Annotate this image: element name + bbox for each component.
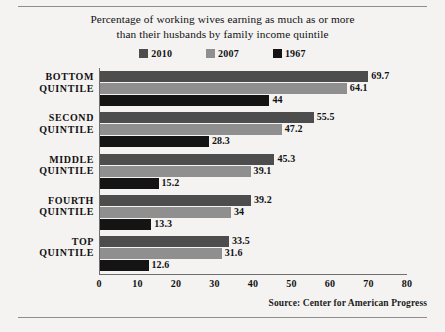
- bar-group: BOTTOMQUINTILE69.764.144: [100, 71, 407, 107]
- plot-area: BOTTOMQUINTILE69.764.144SECONDQUINTILE55…: [99, 68, 407, 274]
- bar-2010: [100, 195, 251, 206]
- category-label: MIDDLEQUINTILE: [10, 154, 94, 177]
- x-tick-label: 60: [325, 278, 335, 289]
- chart-legend: 2010 2007 1967: [0, 48, 445, 59]
- bar-row: 64.1: [100, 83, 407, 94]
- chart-title: Percentage of working wives earning as m…: [0, 12, 445, 42]
- bar-row: 45.3: [100, 154, 407, 165]
- category-label-line: TOP: [10, 236, 94, 248]
- category-label-line: QUINTILE: [10, 247, 94, 259]
- bar-value-label: 33.5: [232, 235, 250, 246]
- category-label-line: QUINTILE: [10, 206, 94, 218]
- bar-value-label: 64.1: [350, 82, 368, 93]
- bar-2010: [100, 154, 274, 165]
- bar-row: 34: [100, 207, 407, 218]
- bar-1967: [100, 136, 209, 147]
- bar-group: FOURTHQUINTILE39.23413.3: [100, 195, 407, 231]
- legend-swatch-2007: [206, 49, 215, 58]
- bar-value-label: 28.3: [212, 135, 230, 146]
- legend-label-2010: 2010: [151, 48, 172, 59]
- bar-value-label: 44: [272, 94, 282, 105]
- bar-2007: [100, 124, 282, 135]
- bottom-divider: [18, 317, 427, 318]
- bar-group: SECONDQUINTILE55.547.228.3: [100, 112, 407, 148]
- bar-row: 31.6: [100, 248, 407, 259]
- bar-value-label: 13.3: [154, 218, 172, 229]
- bar-1967: [100, 219, 151, 230]
- legend-swatch-1967: [273, 49, 282, 58]
- bar-2010: [100, 71, 368, 82]
- bar-row: 28.3: [100, 136, 407, 147]
- x-axis-line: [99, 274, 407, 275]
- bar-row: 39.1: [100, 166, 407, 177]
- bar-2007: [100, 166, 251, 177]
- bar-value-label: 34: [234, 206, 244, 217]
- bar-row: 69.7: [100, 71, 407, 82]
- x-tick-label: 80: [402, 278, 412, 289]
- bar-value-label: 55.5: [317, 111, 335, 122]
- bar-row: 13.3: [100, 219, 407, 230]
- bar-row: 33.5: [100, 236, 407, 247]
- bar-value-label: 12.6: [152, 259, 170, 270]
- bar-1967: [100, 95, 269, 106]
- bar-row: 47.2: [100, 124, 407, 135]
- bar-row: 12.6: [100, 260, 407, 271]
- x-tick-label: 70: [363, 278, 373, 289]
- bar-2007: [100, 207, 231, 218]
- bar-2007: [100, 83, 347, 94]
- bar-group: MIDDLEQUINTILE45.339.115.2: [100, 154, 407, 190]
- bar-1967: [100, 260, 149, 271]
- chart-title-line-1: Percentage of working wives earning as m…: [0, 12, 445, 27]
- x-tick-label: 30: [209, 278, 219, 289]
- bar-row: 15.2: [100, 178, 407, 189]
- bar-row: 39.2: [100, 195, 407, 206]
- category-label-line: MIDDLE: [10, 154, 94, 166]
- category-label-line: QUINTILE: [10, 165, 94, 177]
- legend-item-1967: 1967: [273, 48, 306, 59]
- legend-item-2007: 2007: [206, 48, 239, 59]
- x-tick-label: 40: [248, 278, 258, 289]
- bar-value-label: 47.2: [285, 123, 303, 134]
- category-label-line: QUINTILE: [10, 83, 94, 95]
- legend-item-2010: 2010: [139, 48, 172, 59]
- chart-title-line-2: than their husbands by family income qui…: [0, 27, 445, 42]
- bar-value-label: 39.2: [254, 194, 272, 205]
- bar-2010: [100, 236, 229, 247]
- x-tick-label: 20: [171, 278, 181, 289]
- category-label-line: QUINTILE: [10, 124, 94, 136]
- bar-value-label: 31.6: [225, 247, 243, 258]
- bar-row: 44: [100, 95, 407, 106]
- x-tick-label: 10: [132, 278, 142, 289]
- category-label: TOPQUINTILE: [10, 236, 94, 259]
- category-label-line: SECOND: [10, 112, 94, 124]
- bar-2007: [100, 248, 222, 259]
- bar-value-label: 69.7: [371, 70, 389, 81]
- category-label-line: FOURTH: [10, 195, 94, 207]
- legend-swatch-2010: [139, 49, 148, 58]
- bar-2010: [100, 112, 314, 123]
- bar-row: 55.5: [100, 112, 407, 123]
- x-tick-label: 50: [286, 278, 296, 289]
- source-note: Source: Center for American Progress: [269, 298, 427, 308]
- bar-group: TOPQUINTILE33.531.612.6: [100, 236, 407, 272]
- legend-label-1967: 1967: [285, 48, 306, 59]
- category-label: FOURTHQUINTILE: [10, 195, 94, 218]
- top-divider: [18, 6, 427, 7]
- x-tick-label: 0: [96, 278, 101, 289]
- bar-value-label: 39.1: [254, 165, 272, 176]
- category-label: BOTTOMQUINTILE: [10, 71, 94, 94]
- bar-value-label: 45.3: [277, 153, 295, 164]
- bar-1967: [100, 178, 159, 189]
- category-label: SECONDQUINTILE: [10, 112, 94, 135]
- bar-value-label: 15.2: [162, 177, 180, 188]
- chart-container: Percentage of working wives earning as m…: [0, 0, 445, 332]
- category-label-line: BOTTOM: [10, 71, 94, 83]
- legend-label-2007: 2007: [218, 48, 239, 59]
